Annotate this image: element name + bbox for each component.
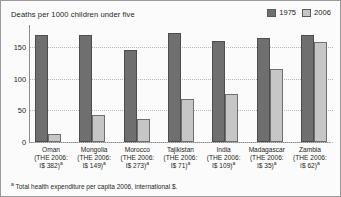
legend-swatch-1975: [267, 9, 276, 17]
x-axis-label-oman: Oman(THE 2006:I$ 382)a: [30, 146, 72, 171]
y-axis-tick-150: 150: [14, 43, 26, 52]
bar-tajikistan-1975: [168, 33, 181, 142]
x-label-name: Oman: [30, 146, 72, 154]
x-label-value-line: I$ 62)a: [289, 162, 331, 170]
chart-legend: 19752006: [267, 9, 331, 17]
footnote-marker: a: [11, 181, 14, 187]
x-label-footnote-marker: a: [233, 160, 236, 166]
x-label-name: Morocco: [116, 146, 158, 154]
chart-footnote: a Total health expenditure per capita 20…: [11, 183, 177, 190]
y-axis-tick-50: 50: [18, 106, 26, 115]
x-axis-label-mongolia: Mongolia(THE 2006:I$ 149)a: [73, 146, 115, 171]
bar-mongolia-2006: [92, 115, 105, 142]
x-label-footnote-marker: a: [317, 160, 320, 166]
bar-group-morocco: [124, 25, 150, 142]
y-axis-tick-100: 100: [14, 74, 26, 83]
x-label-footnote-marker: a: [60, 160, 63, 166]
bar-zambia-2006: [314, 42, 327, 142]
x-label-name: Madagascar: [246, 146, 288, 154]
bar-india-1975: [212, 41, 225, 142]
plot-inner: 050100150: [29, 25, 331, 143]
x-label-name: Tajikistan: [159, 146, 201, 154]
bar-group-india: [212, 25, 238, 142]
x-label-footnote-marker: a: [188, 160, 191, 166]
plot-area: 050100150: [29, 25, 331, 143]
x-label-value-line: I$ 149)a: [73, 162, 115, 170]
x-axis-labels: Oman(THE 2006:I$ 382)aMongolia(THE 2006:…: [29, 146, 331, 171]
x-label-name: Zambia: [289, 146, 331, 154]
x-axis-label-tajikistan: Tajikistan(THE 2006:I$ 71)a: [159, 146, 201, 171]
legend-swatch-2006: [302, 9, 311, 17]
legend-label-1975: 1975: [279, 9, 296, 17]
bar-group-tajikistan: [168, 25, 194, 142]
x-label-value-line: I$ 273)a: [116, 162, 158, 170]
x-axis-label-zambia: Zambia(THE 2006:I$ 62)a: [289, 146, 331, 171]
bar-india-2006: [225, 94, 238, 142]
y-axis-tick-0: 0: [22, 138, 26, 147]
bar-morocco-2006: [137, 119, 150, 142]
x-label-name: Mongolia: [73, 146, 115, 154]
x-axis-label-india: India(THE 2006:I$ 109)a: [203, 146, 245, 171]
x-label-footnote-marker: a: [103, 160, 106, 166]
legend-item-1975: 1975: [267, 9, 296, 17]
bar-oman-2006: [48, 134, 61, 142]
bar-group-madagascar: [257, 25, 283, 142]
bar-oman-1975: [35, 35, 48, 143]
x-label-value-line: I$ 109)a: [203, 162, 245, 170]
x-label-name: India: [203, 146, 245, 154]
bar-mongolia-1975: [79, 35, 92, 143]
chart-figure: Deaths per 1000 children under five 1975…: [0, 0, 341, 197]
bar-group-mongolia: [79, 25, 105, 142]
bar-tajikistan-2006: [181, 99, 194, 142]
x-label-footnote-marker: a: [146, 160, 149, 166]
x-label-value-line: I$ 71)a: [159, 162, 201, 170]
legend-item-2006: 2006: [302, 9, 331, 17]
bar-morocco-1975: [124, 50, 137, 142]
x-axis-label-madagascar: Madagascar(THE 2006:I$ 35)a: [246, 146, 288, 171]
bar-group-zambia: [301, 25, 327, 142]
x-label-value-line: I$ 35)a: [246, 162, 288, 170]
x-axis-label-morocco: Morocco(THE 2006:I$ 273)a: [116, 146, 158, 171]
footnote-text: Total health expenditure per capita 2006…: [15, 183, 177, 190]
x-label-footnote-marker: a: [274, 160, 277, 166]
chart-title: Deaths per 1000 children under five: [11, 10, 135, 19]
bar-madagascar-1975: [257, 38, 270, 142]
legend-label-2006: 2006: [314, 9, 331, 17]
bar-madagascar-2006: [270, 69, 283, 142]
bar-zambia-1975: [301, 35, 314, 143]
bar-series-container: [30, 25, 331, 142]
bar-group-oman: [35, 25, 61, 142]
x-label-value-line: I$ 382)a: [30, 162, 72, 170]
gridline-0: [30, 142, 333, 143]
